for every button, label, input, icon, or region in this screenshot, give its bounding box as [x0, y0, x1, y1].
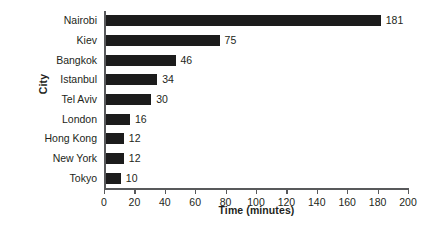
- x-axis-tick-mark: [378, 189, 379, 194]
- x-axis-tick-mark: [317, 189, 318, 194]
- y-axis-tick-label: New York: [53, 152, 97, 165]
- y-axis-tick-label: Bangkok: [56, 54, 97, 67]
- bar-value-label: 75: [225, 34, 237, 47]
- bar-value-label: 10: [126, 172, 138, 185]
- bar: [106, 94, 152, 105]
- x-axis-tick-mark: [226, 189, 227, 194]
- x-axis-tick-mark: [256, 189, 257, 194]
- bar-value-label: 46: [181, 54, 193, 67]
- y-axis-tick-label: London: [62, 113, 97, 126]
- bar-value-label: 16: [135, 113, 147, 126]
- bar: [106, 55, 176, 66]
- bar: [106, 74, 158, 85]
- y-axis-tick-label: Istanbul: [60, 73, 97, 86]
- bar-chart: City NairobiKievBangkokIstanbulTel AvivL…: [0, 0, 442, 244]
- bar-value-label: 12: [129, 132, 141, 145]
- x-axis-tick-mark: [134, 189, 135, 194]
- bar: [106, 15, 381, 26]
- bar-value-label: 34: [162, 73, 174, 86]
- bar: [106, 173, 121, 184]
- bar-value-label: 12: [129, 152, 141, 165]
- bar: [106, 153, 124, 164]
- y-axis-tick-label: Hong Kong: [44, 132, 97, 145]
- x-axis-tick-mark: [104, 189, 105, 194]
- y-axis-tick-label: Tokyo: [70, 172, 97, 185]
- bar-value-label: 181: [386, 14, 404, 27]
- x-axis-tick-mark: [165, 189, 166, 194]
- bar-value-label: 30: [156, 93, 168, 106]
- bar: [106, 133, 124, 144]
- x-axis-tick-mark: [195, 189, 196, 194]
- y-axis-tick-label: Nairobi: [64, 14, 97, 27]
- bar: [106, 114, 130, 125]
- y-axis-category-labels: NairobiKievBangkokIstanbulTel AvivLondon…: [22, 11, 101, 188]
- y-axis-tick-label: Tel Aviv: [62, 93, 97, 106]
- y-axis-tick-label: Kiev: [77, 34, 97, 47]
- x-axis-title: Time (minutes): [104, 204, 409, 216]
- bar: [106, 35, 220, 46]
- plot-area: 1817546343016121210020406080100120140160…: [104, 11, 408, 188]
- x-axis-tick-mark: [286, 189, 287, 194]
- x-axis-tick-mark: [408, 189, 409, 194]
- x-axis-tick-mark: [347, 189, 348, 194]
